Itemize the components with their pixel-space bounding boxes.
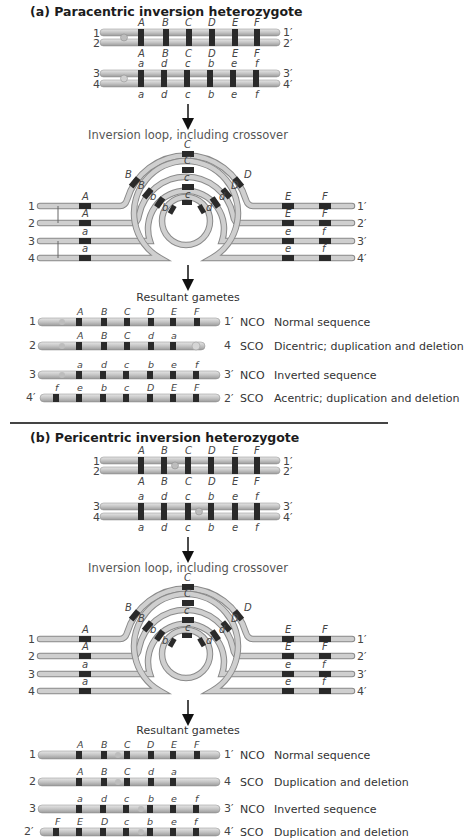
- svg-text:B: B: [101, 739, 108, 750]
- svg-text:f: f: [194, 816, 199, 827]
- svg-text:d: d: [219, 191, 226, 202]
- svg-text:2: 2: [29, 339, 36, 352]
- svg-text:d: d: [148, 766, 155, 777]
- svg-text:D: D: [147, 382, 154, 393]
- svg-text:d: d: [161, 491, 168, 502]
- svg-text:c: c: [185, 491, 191, 502]
- svg-text:E: E: [171, 739, 177, 750]
- svg-text:C: C: [185, 445, 192, 456]
- svg-text:A: A: [76, 739, 84, 750]
- svg-text:b: b: [208, 89, 214, 100]
- svg-text:4′: 4′: [224, 825, 234, 838]
- svg-text:c: c: [185, 522, 191, 533]
- svg-text:F: F: [322, 641, 328, 652]
- svg-text:b: b: [208, 58, 214, 69]
- svg-text:f: f: [255, 491, 260, 502]
- panel-a-gametes: 1 AB CD EF 1′ 2 AB Cd a 4 3 ad cb ef: [26, 306, 234, 405]
- panel-b-gamete-4-label: SCODuplication and deletion: [240, 826, 409, 839]
- svg-text:2′: 2′: [283, 37, 293, 50]
- svg-text:a: a: [138, 89, 144, 100]
- panel-b-pair-3-4: 3 4 ad cb ef ad cb ef 3′ 4′: [93, 491, 293, 533]
- svg-text:E: E: [171, 382, 177, 393]
- svg-text:d: d: [219, 624, 226, 635]
- svg-text:f: f: [55, 382, 60, 393]
- svg-text:e: e: [171, 359, 177, 370]
- svg-text:F: F: [194, 739, 200, 750]
- svg-text:f: f: [322, 676, 327, 687]
- svg-text:C: C: [124, 739, 131, 750]
- svg-text:4: 4: [28, 252, 35, 265]
- panel-b-gametes: 1 AB CD EF 1′ 2 AB Cd a 4 3 ad cb ef 3′ …: [24, 739, 234, 838]
- svg-text:D: D: [101, 816, 108, 827]
- panel-a-gamete-3-label: NCOInverted sequence: [240, 369, 377, 382]
- svg-text:c: c: [124, 382, 130, 393]
- svg-text:D: D: [231, 613, 239, 624]
- svg-text:b: b: [208, 522, 214, 533]
- svg-text:c: c: [185, 189, 191, 200]
- svg-text:4′: 4′: [283, 78, 293, 91]
- svg-text:f: f: [322, 226, 327, 237]
- svg-text:D: D: [231, 180, 239, 191]
- svg-text:B: B: [138, 180, 145, 191]
- svg-text:4′: 4′: [283, 511, 293, 524]
- svg-text:a: a: [138, 522, 144, 533]
- svg-text:b: b: [101, 382, 107, 393]
- svg-text:B: B: [101, 330, 108, 341]
- svg-text:B: B: [161, 476, 168, 487]
- svg-text:2: 2: [28, 650, 35, 663]
- panel-a-gamete-2-label: SCODicentric; duplication and deletion: [240, 340, 394, 353]
- svg-text:f: f: [255, 89, 260, 100]
- panel-a-gamete-4-label: SCOAcentric; duplication and deletion: [240, 392, 394, 405]
- svg-text:3: 3: [28, 668, 35, 681]
- svg-text:F: F: [254, 17, 260, 28]
- svg-text:3′: 3′: [357, 668, 367, 681]
- svg-text:f: f: [195, 359, 200, 370]
- svg-text:E: E: [285, 208, 292, 219]
- svg-text:D: D: [147, 739, 154, 750]
- panel-b-loop-caption: Inversion loop, including crossover: [0, 561, 376, 575]
- svg-text:D: D: [208, 17, 216, 28]
- svg-text:A: A: [81, 208, 89, 219]
- svg-text:E: E: [171, 306, 177, 317]
- svg-text:b: b: [148, 359, 154, 370]
- svg-text:c: c: [184, 605, 190, 616]
- svg-text:e: e: [232, 491, 238, 502]
- svg-text:C: C: [124, 306, 131, 317]
- panel-divider: [10, 422, 388, 424]
- svg-text:1: 1: [29, 315, 36, 328]
- svg-text:f: f: [255, 58, 260, 69]
- svg-text:4′: 4′: [26, 391, 36, 404]
- svg-text:e: e: [285, 659, 291, 670]
- svg-text:D: D: [208, 476, 216, 487]
- svg-text:1′: 1′: [224, 748, 234, 761]
- svg-text:B: B: [125, 602, 132, 613]
- svg-text:C: C: [185, 476, 192, 487]
- panel-b-title: (b) Pericentric inversion heterozygote: [30, 430, 299, 445]
- svg-text:2: 2: [93, 465, 100, 478]
- centromere: [121, 34, 128, 41]
- svg-text:C: C: [124, 330, 131, 341]
- svg-text:1: 1: [28, 633, 35, 646]
- svg-text:B: B: [101, 306, 108, 317]
- panel-a-pair-3-4: 3 4 ad cb ef ad cb ef 3′ 4′: [93, 58, 293, 100]
- svg-text:a: a: [82, 243, 88, 254]
- svg-text:d: d: [101, 793, 108, 804]
- svg-text:1′: 1′: [357, 633, 367, 646]
- svg-text:D: D: [147, 306, 154, 317]
- svg-text:b: b: [162, 635, 168, 646]
- svg-text:2′: 2′: [24, 825, 34, 838]
- svg-text:a: a: [82, 226, 88, 237]
- svg-text:D: D: [208, 445, 216, 456]
- svg-text:4: 4: [93, 78, 100, 91]
- svg-text:d: d: [161, 58, 168, 69]
- svg-text:a: a: [77, 793, 83, 804]
- panel-b-pair-1-2: 1 2 AB CD EF AB CD EF 1′ 2′: [93, 445, 293, 487]
- svg-text:A: A: [137, 476, 145, 487]
- svg-text:f: f: [322, 243, 327, 254]
- svg-text:f: f: [195, 793, 200, 804]
- panel-a-loop-caption: Inversion loop, including crossover: [0, 128, 376, 142]
- svg-text:a: a: [77, 359, 83, 370]
- panel-b-resultant-caption: Resultant gametes: [0, 724, 376, 737]
- svg-text:4: 4: [93, 511, 100, 524]
